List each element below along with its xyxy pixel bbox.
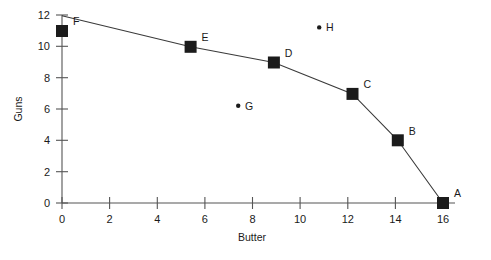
x-tick-label-2: 2 xyxy=(107,213,113,225)
point-label-E: E xyxy=(202,31,209,43)
ppf-point-F: F xyxy=(56,15,79,37)
marker-square-E xyxy=(185,41,197,53)
x-tick-label-10: 10 xyxy=(294,213,306,225)
y-axis-tick-labels: 12 10 8 6 4 2 0 xyxy=(38,9,50,209)
x-tick-label-14: 14 xyxy=(389,213,401,225)
y-axis-title: Guns xyxy=(12,96,24,121)
point-label-H: H xyxy=(326,21,334,33)
x-tick-label-12: 12 xyxy=(342,213,354,225)
x-tick-label-6: 6 xyxy=(202,213,208,225)
axes xyxy=(62,15,455,203)
point-label-B: B xyxy=(409,125,416,137)
x-tick-label-4: 4 xyxy=(154,213,160,225)
y-tick-label-12: 12 xyxy=(38,9,50,21)
x-axis-title: Butter xyxy=(238,231,267,243)
y-tick-label-2: 2 xyxy=(44,166,50,178)
marker-dot-G xyxy=(236,104,240,108)
ppf-point-C: C xyxy=(347,78,372,100)
ppf-point-A: A xyxy=(437,187,461,209)
ppf-point-B: B xyxy=(392,125,416,147)
y-tick-label-10: 10 xyxy=(38,40,50,52)
x-tick-label-8: 8 xyxy=(249,213,255,225)
marker-square-D xyxy=(268,57,280,69)
x-tick-label-0: 0 xyxy=(59,213,65,225)
y-tick-label-6: 6 xyxy=(44,103,50,115)
point-label-A: A xyxy=(454,187,461,199)
chart-canvas: 12 10 8 6 4 2 0 0 2 4 6 8 10 12 xyxy=(0,0,491,260)
marker-square-F xyxy=(56,25,68,37)
marker-square-B xyxy=(392,134,404,146)
point-label-F: F xyxy=(73,15,79,27)
x-axis-tick-labels: 0 2 4 6 8 10 12 14 16 xyxy=(59,213,449,225)
scatter-point-G: G xyxy=(236,100,253,112)
production-possibilities-chart: 12 10 8 6 4 2 0 0 2 4 6 8 10 12 xyxy=(0,0,491,260)
point-label-G: G xyxy=(245,100,253,112)
x-tick-label-16: 16 xyxy=(437,213,449,225)
y-tick-label-0: 0 xyxy=(44,197,50,209)
marker-square-C xyxy=(347,88,359,100)
point-label-C: C xyxy=(363,78,371,90)
y-tick-label-8: 8 xyxy=(44,72,50,84)
marker-square-A xyxy=(437,197,449,209)
marker-dot-H xyxy=(317,25,321,29)
y-tick-label-4: 4 xyxy=(44,134,50,146)
scatter-point-H: H xyxy=(317,21,334,33)
point-label-D: D xyxy=(285,47,293,59)
